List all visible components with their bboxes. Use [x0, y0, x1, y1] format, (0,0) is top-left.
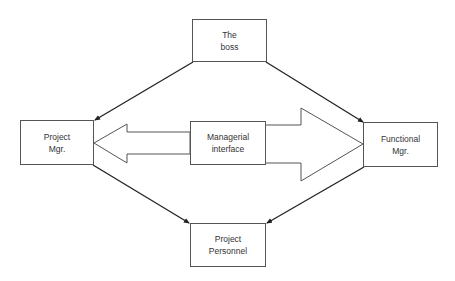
node-label: Project Personnel	[209, 233, 247, 257]
edge-boss-to-project-mgr	[95, 62, 193, 120]
block-arrow-right-icon	[265, 108, 363, 181]
edge-boss-to-functional-mgr	[266, 62, 363, 122]
node-label: The boss	[221, 29, 239, 53]
node-project-personnel: Project Personnel	[190, 223, 266, 267]
node-the-boss: The boss	[192, 19, 267, 62]
node-label: Functional Mgr.	[381, 133, 420, 157]
node-project-mgr: Project Mgr.	[20, 120, 94, 165]
block-arrow-left-icon	[94, 124, 190, 163]
node-label: Project Mgr.	[44, 131, 70, 155]
node-label: Managerial interface	[207, 131, 249, 155]
edge-functional-mgr-to-personnel	[267, 167, 364, 223]
edge-project-mgr-to-personnel	[93, 165, 189, 223]
node-managerial-interface: Managerial interface	[190, 121, 266, 165]
node-functional-mgr: Functional Mgr.	[363, 122, 438, 167]
